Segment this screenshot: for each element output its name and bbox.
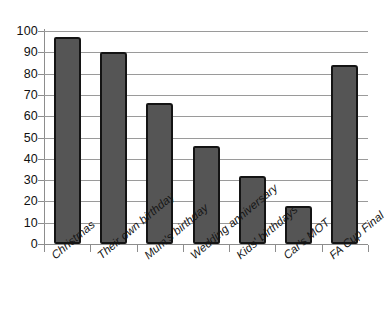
- x-axis-tick: [275, 245, 276, 252]
- x-axis-tick: [183, 245, 184, 252]
- y-axis-tick-label: 80: [6, 68, 38, 80]
- y-axis-tick-label: 30: [6, 174, 38, 186]
- y-axis-tick-label: 90: [6, 46, 38, 58]
- y-axis-tick-label: 0: [6, 238, 38, 250]
- gridline: [44, 74, 368, 75]
- y-axis-tick-label: 60: [6, 110, 38, 122]
- gridline: [44, 31, 368, 32]
- x-axis-tick: [44, 245, 45, 252]
- bar-chart: 1009080706050403020100 ChristmasTheir ow…: [0, 0, 390, 332]
- gridline: [44, 95, 368, 96]
- y-axis-tick-label: 10: [6, 217, 38, 229]
- y-axis-tick-label: 50: [6, 132, 38, 144]
- bar: [54, 37, 81, 244]
- gridline: [44, 138, 368, 139]
- gridline: [44, 52, 368, 53]
- bar: [100, 52, 127, 244]
- x-axis-tick: [137, 245, 138, 252]
- x-axis-tick: [322, 245, 323, 252]
- x-axis-tick: [229, 245, 230, 252]
- bar: [331, 65, 358, 244]
- y-axis-tick-label: 100: [6, 25, 38, 37]
- y-axis-tick-label: 70: [6, 89, 38, 101]
- x-axis-tick: [368, 245, 369, 252]
- gridline: [44, 116, 368, 117]
- x-axis-tick: [90, 245, 91, 252]
- y-axis-tick-label: 40: [6, 153, 38, 165]
- y-axis-tick-label: 20: [6, 195, 38, 207]
- bar: [146, 103, 173, 244]
